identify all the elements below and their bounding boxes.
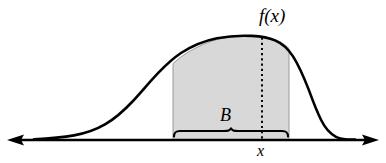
figure-canvas: f(x) B x (0, 0, 386, 163)
shaded-region-B (173, 36, 289, 140)
function-label-fx: f(x) (259, 6, 285, 25)
axis-point-label-x: x (257, 143, 264, 159)
density-curve-diagram (0, 0, 386, 163)
region-label-B: B (220, 106, 231, 124)
